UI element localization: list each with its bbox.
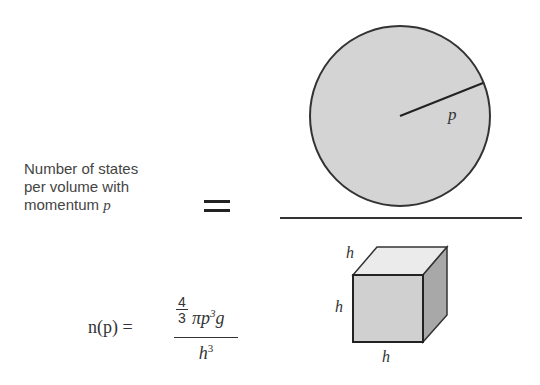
- momentum-sphere: p: [300, 0, 500, 210]
- label-line-3: momentum p: [24, 196, 138, 214]
- formula-lhs: n(p) =: [88, 317, 133, 338]
- cube-bottom-label: h: [382, 348, 390, 365]
- cube-side-label: h: [335, 298, 343, 315]
- cube-top-label: h: [346, 244, 354, 261]
- formula-numerator: 4 3 πp3g: [174, 295, 238, 335]
- fraction-divider: [280, 217, 522, 219]
- description-label: Number of states per volume with momentu…: [24, 160, 138, 214]
- equals-sign: [204, 200, 230, 218]
- radius-label: p: [447, 105, 457, 124]
- formula-denominator: h3: [174, 342, 238, 364]
- label-line-2: per volume with: [24, 178, 138, 196]
- label-line-1: Number of states: [24, 160, 138, 178]
- formula-fraction: 4 3 πp3g h3: [174, 295, 238, 364]
- unit-cube: h h h: [320, 230, 460, 380]
